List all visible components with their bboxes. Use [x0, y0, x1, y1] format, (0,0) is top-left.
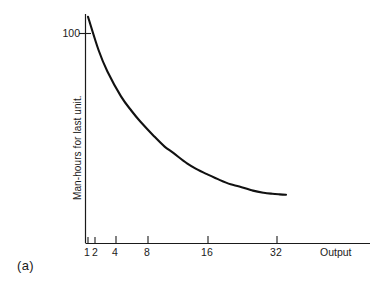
chart-plot-area: [0, 0, 386, 284]
x-tick-label-2: 2: [92, 246, 98, 258]
x-tick-label-32: 32: [270, 246, 282, 258]
x-tick-label-1: 1: [84, 246, 90, 258]
x-tick-label-16: 16: [201, 246, 213, 258]
x-axis-title: Output: [320, 246, 352, 258]
x-tick-label-8: 8: [144, 246, 150, 258]
y-axis-title: Man-hours for last unit.: [72, 95, 83, 200]
x-tick-label-4: 4: [112, 246, 118, 258]
learning-curve-line: [88, 17, 286, 195]
learning-curve-figure: 100 Man-hours for last unit. 1 2 4 8 16 …: [0, 0, 386, 284]
y-tick-label-100: 100: [58, 27, 80, 39]
panel-label: (a): [17, 258, 34, 273]
